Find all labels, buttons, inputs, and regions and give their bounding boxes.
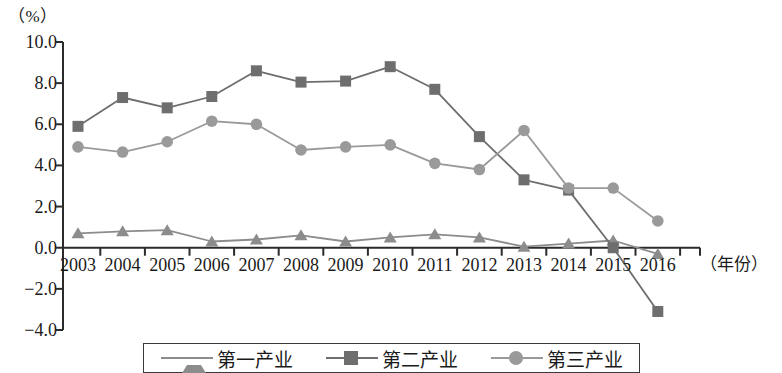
legend-triangle-icon (161, 349, 213, 367)
legend-item[interactable]: 第三产业 (491, 345, 623, 372)
series-2 (73, 61, 664, 317)
data-point (340, 141, 352, 153)
x-tick-label: 2010 (372, 256, 408, 274)
legend-square-icon (326, 349, 378, 367)
legend-label: 第三产业 (547, 345, 623, 372)
data-point (296, 77, 307, 88)
data-point (206, 91, 217, 102)
data-point (608, 242, 619, 253)
data-point (72, 141, 84, 153)
data-point (340, 76, 351, 87)
chart-legend: 第一产业第二产业第三产业 (143, 343, 640, 373)
data-point (429, 84, 440, 95)
x-tick-label: 2012 (461, 256, 497, 274)
legend-label: 第一产业 (217, 345, 293, 372)
data-point (652, 306, 663, 317)
x-tick-label: 2008 (283, 256, 319, 274)
x-tick-label: 2016 (640, 256, 676, 274)
legend-circle-icon (491, 349, 543, 367)
x-tick-label: 2011 (417, 256, 452, 274)
x-tick-label: 2006 (194, 256, 230, 274)
x-tick-label: 2007 (238, 256, 274, 274)
line-chart: （%） 10.08.06.04.02.00.0−2.0−4.0 20032004… (0, 0, 782, 373)
data-point (251, 65, 262, 76)
x-tick-label: 2003 (60, 256, 96, 274)
data-point (474, 131, 485, 142)
chart-plot-area (0, 0, 782, 373)
legend-item[interactable]: 第一产业 (161, 345, 293, 372)
data-point (73, 121, 84, 132)
data-point (429, 158, 441, 170)
x-tick-label: 2004 (105, 256, 141, 274)
data-point (384, 139, 396, 151)
series-3 (72, 115, 663, 226)
data-point (295, 144, 307, 156)
data-point (652, 215, 664, 227)
data-point (251, 118, 263, 130)
data-point (519, 174, 530, 185)
x-tick-label: 2014 (551, 256, 587, 274)
x-tick-label: 2013 (506, 256, 542, 274)
data-point (607, 182, 619, 194)
x-axis-title: （年份） (700, 256, 768, 273)
data-point (518, 125, 530, 137)
data-point (385, 61, 396, 72)
data-point (117, 92, 128, 103)
chart-series (72, 61, 665, 317)
x-tick-label: 2005 (149, 256, 185, 274)
chart-axes (56, 42, 700, 330)
x-tick-label: 2015 (595, 256, 631, 274)
data-point (563, 182, 575, 194)
data-point (295, 229, 308, 240)
data-point (206, 115, 218, 127)
data-point (117, 146, 129, 158)
legend-label: 第二产业 (382, 345, 458, 372)
data-point (161, 136, 173, 148)
x-tick-label: 2009 (328, 256, 364, 274)
data-point (162, 102, 173, 113)
legend-item[interactable]: 第二产业 (326, 345, 458, 372)
data-point (474, 164, 486, 176)
